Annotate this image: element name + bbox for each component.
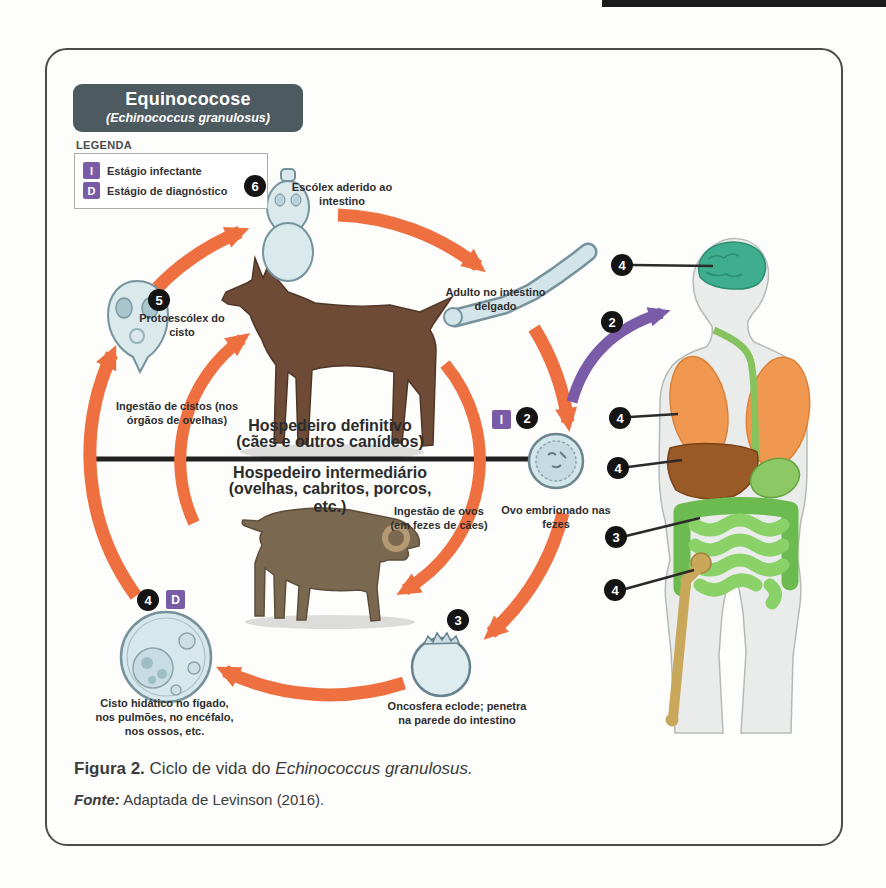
- stage-6-badge: 6: [244, 175, 266, 197]
- figure-caption-label: Figura 2.: [74, 759, 145, 778]
- stage-5-label: Protoescólex do cisto: [132, 312, 232, 340]
- figure-source-text: Adaptada de Levinson (2016).: [123, 791, 324, 808]
- stage-3-badge: 3: [447, 609, 469, 631]
- figure-caption-species: Echinococcus granulosus.: [275, 759, 473, 778]
- definitive-host-subtitle: (cães e outros canídeos): [215, 433, 445, 451]
- adult-worm-label: Adulto no intestino delgado: [428, 286, 563, 314]
- stage-2-infective-badge: I: [492, 410, 511, 429]
- marker-mouth: 2: [601, 311, 623, 333]
- infective-stage-badge: I: [83, 162, 100, 179]
- figure-page: Equinococose (Echinococcus granulosus) L…: [0, 0, 886, 888]
- disease-title: Equinococose: [77, 89, 299, 110]
- sheep-shadow: [245, 615, 415, 629]
- arrow-5-to-6: [157, 232, 240, 288]
- arrow-oncosphere-to-cyst: [225, 671, 404, 695]
- legend-heading: LEGENDA: [76, 139, 132, 151]
- stage-6-label: Escólex aderido ao intestino: [288, 181, 396, 209]
- intermediate-host-subtitle: (ovelhas, cabritos, porcos, etc.): [215, 480, 445, 516]
- marker-lungs: 4: [609, 407, 631, 429]
- stage-5-badge: 5: [148, 289, 170, 311]
- legend-box: I Estágio infectante D Estágio de diagnó…: [74, 153, 268, 209]
- figure-caption: Figura 2. Ciclo de vida do Echinococcus …: [74, 759, 473, 779]
- figure-caption-text: Ciclo de vida do: [150, 759, 271, 778]
- femur-condyle: [666, 714, 679, 727]
- disease-species-subtitle: (Echinococcus granulosus): [77, 111, 299, 125]
- stage-4-badge: 4: [137, 589, 159, 611]
- egg-illustration: [529, 434, 583, 488]
- marker-intestine: 3: [605, 526, 627, 548]
- hydatid-cyst-illustration: [121, 612, 211, 702]
- marker-liver: 4: [607, 457, 629, 479]
- legend-item-infective: I Estágio infectante: [83, 162, 259, 179]
- legend-item-label: Estágio de diagnóstico: [107, 185, 227, 197]
- figure-source: Fonte: Adaptada de Levinson (2016).: [74, 791, 324, 808]
- arrow-cyst-to-protoscolex: [90, 354, 136, 596]
- disease-title-box: Equinococose (Echinococcus granulosus): [73, 84, 303, 132]
- arrow-6-to-adult: [338, 215, 478, 266]
- marker-brain: 4: [611, 254, 633, 276]
- diagnostic-stage-badge: D: [83, 182, 100, 199]
- arrow-adult-to-egg: [534, 328, 568, 422]
- stage-2-label: Ovo embrionado nas fezes: [500, 504, 612, 532]
- legend-item-diagnostic: D Estágio de diagnóstico: [83, 182, 259, 199]
- stage-2-badge: 2: [516, 407, 538, 429]
- oncosphere-illustration: [412, 633, 470, 696]
- stage-4-diagnostic-badge: D: [166, 590, 185, 609]
- stage-3-label: Oncosfera eclode; penetra na parede do i…: [382, 700, 532, 728]
- stage-4-label: Cisto hidático no fígado, nos pulmões, n…: [92, 697, 237, 738]
- figure-source-label: Fonte:: [74, 791, 120, 808]
- marker-femur: 4: [604, 579, 626, 601]
- legend-item-label: Estágio infectante: [107, 165, 202, 177]
